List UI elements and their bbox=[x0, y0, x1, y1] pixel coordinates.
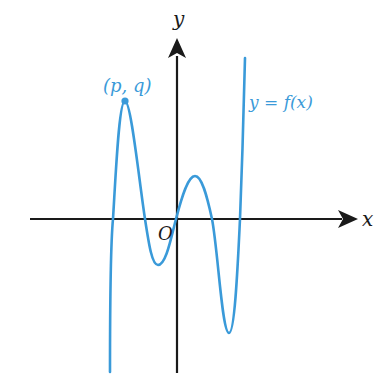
x-axis-label: x bbox=[362, 207, 373, 231]
max-point-marker bbox=[121, 97, 128, 104]
origin-label: O bbox=[158, 223, 173, 244]
x-axis bbox=[30, 210, 358, 228]
point-label: (p, q) bbox=[103, 75, 152, 96]
y-axis bbox=[168, 38, 186, 373]
curve-label: y = f(x) bbox=[248, 92, 313, 112]
y-axis-label: y bbox=[172, 7, 185, 31]
y-axis-arrow-icon bbox=[168, 38, 186, 58]
graph-diagram: y x O (p, q) y = f(x) bbox=[0, 0, 391, 386]
